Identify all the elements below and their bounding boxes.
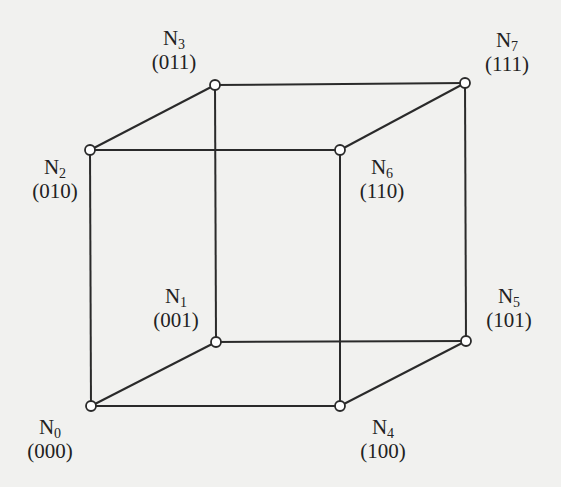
- node-binary-code: (100): [360, 441, 406, 462]
- node-name: N6: [360, 157, 405, 178]
- edge-N5-N7: [465, 83, 466, 341]
- edge-N1-N3: [215, 85, 216, 342]
- edge-N3-N7: [215, 83, 465, 85]
- edge-N0-N1: [91, 342, 216, 406]
- node-N0-circle: [86, 401, 96, 411]
- node-name: N0: [27, 417, 73, 438]
- node-N3-circle: [210, 80, 220, 90]
- node-N2-circle: [85, 145, 95, 155]
- node-binary-code: (011): [152, 52, 197, 73]
- node-name: N4: [360, 417, 406, 438]
- node-binary-code: (101): [486, 310, 532, 331]
- node-N6-circle: [335, 145, 345, 155]
- node-N1-circle: [211, 337, 221, 347]
- node-label-N4: N4(100): [360, 417, 406, 462]
- hypercube-diagram: N0(000)N1(001)N2(010)N3(011)N4(100)N5(10…: [0, 0, 561, 487]
- node-name: N1: [153, 286, 199, 307]
- node-label-N6: N6(110): [360, 157, 405, 202]
- node-label-N1: N1(001): [153, 286, 199, 331]
- node-label-N2: N2(010): [32, 157, 78, 202]
- edge-N2-N3: [90, 85, 215, 150]
- node-name: N7: [485, 30, 529, 51]
- node-N5-circle: [461, 336, 471, 346]
- node-label-N0: N0(000): [27, 417, 73, 462]
- node-label-N7: N7(111): [485, 30, 529, 75]
- edges-layer: [0, 0, 561, 487]
- node-name: N5: [486, 286, 532, 307]
- node-N7-circle: [460, 78, 470, 88]
- node-name: N2: [32, 157, 78, 178]
- node-binary-code: (000): [27, 441, 73, 462]
- node-binary-code: (111): [485, 54, 529, 75]
- node-binary-code: (010): [32, 181, 78, 202]
- node-N4-circle: [335, 401, 345, 411]
- node-label-N5: N5(101): [486, 286, 532, 331]
- edge-N6-N7: [340, 83, 465, 150]
- edge-N0-N2: [90, 150, 91, 406]
- edge-N4-N5: [340, 341, 466, 406]
- node-label-N3: N3(011): [152, 28, 197, 73]
- node-binary-code: (001): [153, 310, 199, 331]
- node-name: N3: [152, 28, 197, 49]
- node-binary-code: (110): [360, 181, 405, 202]
